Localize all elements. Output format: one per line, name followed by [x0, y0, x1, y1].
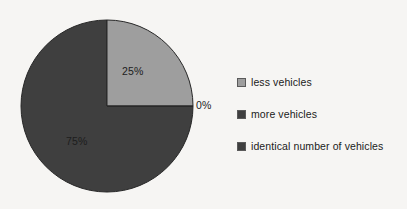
pie-slice-value-more-vehicles: 75%: [66, 136, 88, 147]
legend-label-more-vehicles: more vehicles: [251, 109, 317, 120]
pie-chart-plot-area: [20, 19, 194, 193]
legend-swatch-icon-identical-number-of-vehicles: [237, 142, 246, 151]
legend-swatch-icon-more-vehicles: [237, 110, 246, 119]
pie-slice-less-vehicles[interactable]: [107, 20, 193, 106]
legend-item-less-vehicles[interactable]: less vehicles: [237, 66, 405, 98]
pie-slice-value-identical-number-of-vehicles: 0%: [196, 100, 212, 111]
legend-label-identical-number-of-vehicles: identical number of vehicles: [251, 141, 383, 152]
pie-svg: [20, 19, 194, 193]
pie-slice-value-less-vehicles: 25%: [122, 66, 144, 77]
legend-swatch-icon-less-vehicles: [237, 78, 246, 87]
legend-label-less-vehicles: less vehicles: [251, 77, 312, 88]
legend-item-identical-number-of-vehicles[interactable]: identical number of vehicles: [237, 130, 405, 162]
legend-item-more-vehicles[interactable]: more vehicles: [237, 98, 405, 130]
pie-chart-figure: 25% 75% 0% less vehicles more vehicles i…: [0, 0, 407, 209]
chart-legend: less vehicles more vehicles identical nu…: [237, 66, 405, 162]
